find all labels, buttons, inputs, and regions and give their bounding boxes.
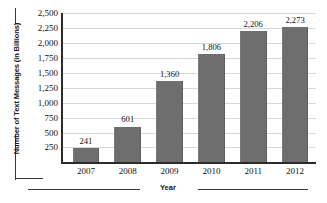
bar-value-label: 2,273 — [274, 15, 316, 25]
bar — [198, 54, 225, 162]
bar — [114, 127, 141, 163]
gridline — [62, 147, 316, 148]
gridline — [62, 28, 316, 29]
gridline — [62, 133, 316, 134]
gridline — [62, 58, 316, 59]
y-axis-tick-label: 250 — [45, 142, 59, 152]
bar-value-label: 241 — [65, 136, 107, 146]
y-axis-tick-label: 1,250 — [38, 83, 58, 93]
y-axis-tick-label: 750 — [45, 113, 59, 123]
x-axis-tick-label: 2010 — [191, 166, 233, 176]
x-axis-tick-label: 2012 — [274, 166, 316, 176]
y-axis-tick-label: 2,500 — [38, 8, 58, 18]
y-axis-tick-label: 2,000 — [38, 38, 58, 48]
y-axis-tick-label: 1,750 — [38, 53, 58, 63]
gridline — [62, 118, 316, 119]
y-axis-title-group: Number of Text Messages (in Billions) — [4, 6, 28, 182]
bar — [240, 31, 267, 163]
bar-value-label: 2,206 — [232, 19, 274, 29]
y-axis-tick-label: 500 — [45, 128, 59, 138]
x-axis-title-group: Year — [28, 183, 308, 197]
x-axis-tick-label: 2007 — [65, 166, 107, 176]
plot-area: 2416011,3601,8062,2062,273 — [61, 13, 316, 164]
x-axis-tick-labels: 200720082009201020112012 — [61, 166, 316, 180]
bar-value-label: 1,360 — [149, 69, 191, 79]
bar-value-label: 1,806 — [191, 42, 233, 52]
gridline — [62, 43, 316, 44]
bar — [73, 148, 100, 162]
x-axis-tick-label: 2011 — [232, 166, 274, 176]
x-axis-tick-label: 2009 — [149, 166, 191, 176]
bar-value-label: 601 — [107, 114, 149, 124]
y-axis-tick-labels: 2505007501,0001,2501,5001,7502,0002,2502… — [28, 0, 61, 203]
bar — [156, 81, 183, 162]
y-axis-tick-label: 1,500 — [38, 68, 58, 78]
y-axis-title: Number of Text Messages (in Billions) — [12, 7, 21, 171]
gridline — [62, 103, 316, 104]
x-axis-title: Year — [28, 183, 308, 192]
y-axis-line — [61, 13, 63, 164]
x-axis-line — [61, 162, 316, 164]
bar-chart-figure: Number of Text Messages (in Billions) 25… — [0, 0, 327, 203]
bar — [282, 27, 309, 163]
y-axis-tick-label: 2,250 — [38, 23, 58, 33]
x-axis-tick-label: 2008 — [107, 166, 149, 176]
gridline — [62, 88, 316, 89]
y-axis-tick-label: 1,000 — [38, 98, 58, 108]
